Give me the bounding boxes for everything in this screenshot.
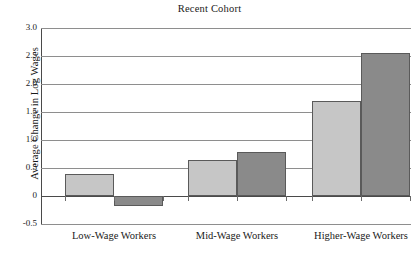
x-axis-tick bbox=[410, 196, 411, 201]
x-label-2: Higher-Wage Workers bbox=[291, 230, 419, 242]
plot-area bbox=[41, 28, 411, 224]
y-tick-label: 1.0 bbox=[1, 135, 37, 144]
x-axis-tick bbox=[312, 196, 313, 201]
chart-container: Recent Cohort Average Change in Log Wage… bbox=[0, 0, 419, 257]
y-tick-label: 1.5 bbox=[1, 107, 37, 116]
bar-dark-bar-0 bbox=[114, 196, 163, 206]
x-label-0: Low-Wage Workers bbox=[44, 230, 184, 242]
bar-light-bar-2 bbox=[312, 101, 361, 196]
y-tick-label: 0 bbox=[1, 191, 37, 200]
y-axis-ticks: 3.02.52.01.51.00.50-0.5 bbox=[1, 28, 37, 224]
bar-light-bar-0 bbox=[65, 174, 114, 196]
y-tick-label: 0.5 bbox=[1, 163, 37, 172]
y-tick-label: -0.5 bbox=[1, 219, 37, 228]
x-axis-tick bbox=[361, 196, 362, 201]
x-label-1: Mid-Wage Workers bbox=[167, 230, 307, 242]
y-tick-label: 2.0 bbox=[1, 79, 37, 88]
bar-dark-bar-2 bbox=[361, 53, 410, 196]
gridline--0-5 bbox=[41, 224, 411, 225]
x-axis-tick bbox=[163, 196, 164, 201]
gridline-0 bbox=[41, 196, 411, 197]
x-axis-tick bbox=[65, 196, 66, 201]
x-axis-labels: Low-Wage WorkersMid-Wage WorkersHigher-W… bbox=[41, 230, 411, 250]
y-tick-label: 3.0 bbox=[1, 23, 37, 32]
gridline-2-5 bbox=[41, 56, 411, 57]
x-axis-tick bbox=[114, 196, 115, 201]
x-axis-tick bbox=[286, 196, 287, 201]
y-tick-label: 2.5 bbox=[1, 51, 37, 60]
gridline-3 bbox=[41, 28, 411, 29]
chart-title: Recent Cohort bbox=[0, 3, 419, 14]
x-axis-tick bbox=[237, 196, 238, 201]
bar-light-bar-1 bbox=[188, 160, 237, 196]
bar-dark-bar-1 bbox=[237, 152, 286, 196]
x-axis-tick bbox=[188, 196, 189, 201]
gridline-2 bbox=[41, 84, 411, 85]
